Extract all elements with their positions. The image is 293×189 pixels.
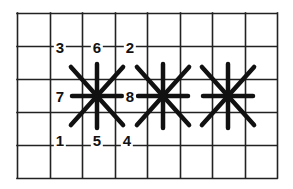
stitch-step-label: 8 <box>124 89 136 104</box>
star-stitch-1 <box>71 64 123 128</box>
star-stitch-3 <box>202 64 254 128</box>
stitch-grid <box>0 0 293 189</box>
stitch-step-label: 1 <box>54 133 66 148</box>
stitch-step-label: 3 <box>54 40 66 55</box>
stitch-step-label: 4 <box>121 133 133 148</box>
stitch-step-label: 6 <box>91 40 103 55</box>
stitch-step-label: 5 <box>91 133 103 148</box>
star-stitch-2 <box>137 64 189 128</box>
star-stitch-diagram: 36278154 <box>0 0 293 189</box>
stitch-step-label: 7 <box>54 89 66 104</box>
stitch-step-label: 2 <box>124 40 136 55</box>
